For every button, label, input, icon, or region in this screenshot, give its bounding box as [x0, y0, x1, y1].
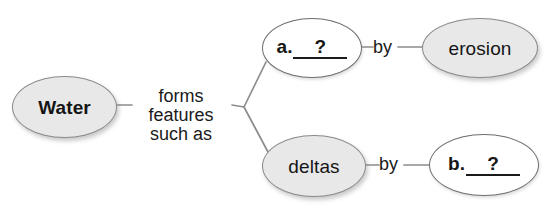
- node-answer-blank-a[interactable]: a.?: [262, 18, 362, 78]
- node-water-label: Water: [38, 98, 91, 117]
- edge-branch-to-deltas: [244, 107, 268, 152]
- node-water[interactable]: Water: [12, 76, 117, 138]
- edge-label-by-bottom: by: [379, 155, 398, 174]
- node-erosion-label: erosion: [448, 39, 511, 58]
- blank-b-answer-slot[interactable]: ?: [466, 154, 520, 176]
- edge-label-by-top: by: [373, 38, 392, 57]
- blank-a-answer-slot[interactable]: ?: [293, 37, 347, 59]
- node-answer-blank-b[interactable]: b.?: [429, 134, 539, 196]
- edge-label-line-1: forms: [128, 87, 234, 106]
- node-deltas[interactable]: deltas: [262, 135, 366, 197]
- node-erosion[interactable]: erosion: [422, 18, 538, 78]
- node-answer-blank-a-label: a.?: [277, 37, 348, 59]
- edge-label-line-2: features: [128, 106, 234, 125]
- node-deltas-label: deltas: [288, 157, 339, 176]
- blank-b-prefix: b.: [448, 154, 465, 173]
- edge-branch-to-blank-a: [244, 62, 266, 107]
- concept-map-diagram: Water a.? erosion deltas b.? forms featu…: [0, 0, 551, 214]
- edge-label-line-3: such as: [128, 125, 234, 144]
- blank-a-prefix: a.: [277, 37, 293, 56]
- edge-label-forms-features-such-as: forms features such as: [128, 87, 234, 144]
- node-answer-blank-b-label: b.?: [448, 154, 520, 176]
